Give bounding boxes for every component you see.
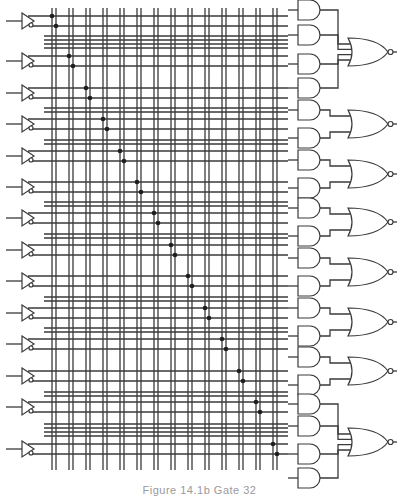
figure-caption: Figure 14.1b Gate 32 — [0, 484, 399, 496]
junction-dot — [54, 24, 59, 29]
nor-input-wire — [320, 404, 352, 434]
junction-dot — [241, 379, 246, 384]
nor-input-wire — [320, 330, 352, 336]
input-buffer — [6, 399, 288, 415]
junction-dot — [84, 86, 89, 91]
nor-input-wire — [320, 280, 352, 286]
junction-dot — [275, 452, 280, 457]
output-stage — [288, 100, 397, 148]
and-gate-icon — [298, 444, 320, 464]
nor-gate-icon — [348, 357, 388, 385]
output-stage — [288, 298, 397, 346]
junction-dot — [220, 337, 225, 342]
inverter-bubble-icon — [388, 270, 393, 275]
nor-input-wire — [320, 182, 352, 188]
junction-dot — [169, 243, 174, 248]
nor-input-wire — [320, 230, 352, 236]
and-gate-icon — [298, 298, 320, 318]
nor-input-wire — [320, 10, 352, 44]
junction-dot — [135, 180, 140, 185]
nor-input-wire — [320, 426, 352, 439]
nor-input-wire — [320, 55, 352, 64]
nor-input-wire — [320, 258, 352, 264]
junction-dot — [50, 14, 55, 19]
input-buffers — [6, 13, 288, 457]
junction-dot — [156, 221, 161, 226]
and-gate-icon — [298, 150, 320, 170]
input-buffer — [6, 53, 288, 69]
inverter-bubble-icon — [388, 440, 393, 445]
input-buffer — [6, 273, 288, 289]
nor-gate-icon — [348, 258, 388, 286]
nor-input-wire — [320, 35, 352, 49]
inverter-bubble-icon — [29, 451, 33, 455]
inverter-bubble-icon — [388, 122, 393, 127]
inverter-bubble-icon — [29, 346, 33, 350]
input-buffer — [6, 148, 288, 164]
inverter-bubble-icon — [388, 220, 393, 225]
and-gate-icon — [298, 25, 320, 45]
input-buffer — [6, 242, 288, 258]
inverter-bubble-icon — [29, 63, 33, 67]
inverter-bubble-icon — [29, 315, 33, 319]
inverter-bubble-icon — [388, 369, 393, 374]
inverter-bubble-icon — [29, 95, 33, 99]
and-gate-icon — [298, 78, 320, 98]
output-stage — [288, 248, 397, 296]
and-gate-icon — [298, 226, 320, 246]
input-buffer — [6, 179, 288, 195]
nor-gate-icon — [348, 208, 388, 236]
nor-input-wire — [320, 379, 352, 385]
inverter-bubble-icon — [29, 189, 33, 193]
inverter-bubble-icon — [29, 23, 33, 27]
junction-dot — [186, 274, 191, 279]
nor-gate-icon — [348, 38, 388, 66]
nor-input-wire — [320, 308, 352, 314]
and-gate-icon — [298, 0, 320, 20]
inverter-bubble-icon — [29, 378, 33, 382]
nor-gate-icon — [348, 308, 388, 336]
output-stage — [288, 347, 397, 395]
junction-dot — [207, 316, 212, 321]
input-buffer — [6, 368, 288, 384]
and-gate-icon — [298, 347, 320, 367]
output-stage — [288, 0, 397, 98]
and-gate-icon — [298, 394, 320, 414]
inverter-bubble-icon — [29, 252, 33, 256]
vertical-bus — [52, 8, 277, 470]
junction-dot — [105, 127, 110, 132]
inverter-bubble-icon — [29, 409, 33, 413]
and-gate-icon — [298, 326, 320, 346]
nor-gate-icon — [348, 110, 388, 138]
junction-dot — [67, 54, 72, 59]
junction-dot — [101, 117, 106, 122]
input-buffer — [6, 85, 288, 101]
and-gate-icon — [298, 100, 320, 120]
inverter-bubble-icon — [29, 158, 33, 162]
junction-dot — [190, 284, 195, 289]
junction-dot — [152, 211, 157, 216]
inverter-bubble-icon — [388, 320, 393, 325]
inverter-bubble-icon — [388, 50, 393, 55]
and-gate-icon — [298, 54, 320, 74]
output-stage — [288, 150, 397, 198]
inverter-bubble-icon — [29, 220, 33, 224]
junction-dot — [258, 410, 263, 415]
junction-dot — [139, 190, 144, 195]
output-stage — [288, 394, 397, 488]
and-gate-icon — [298, 178, 320, 198]
nor-input-wire — [320, 110, 352, 116]
junction-dot — [71, 64, 76, 69]
and-gate-icon — [298, 416, 320, 436]
junction-dot — [271, 442, 276, 447]
junction-dot — [237, 369, 242, 374]
and-gate-icon — [298, 248, 320, 268]
junction-dot — [254, 400, 259, 405]
and-gate-icon — [298, 128, 320, 148]
input-buffer — [6, 116, 288, 132]
select-lines — [44, 36, 288, 436]
nor-input-wire — [320, 357, 352, 363]
junction-dot — [118, 149, 123, 154]
inverter-bubble-icon — [29, 126, 33, 130]
